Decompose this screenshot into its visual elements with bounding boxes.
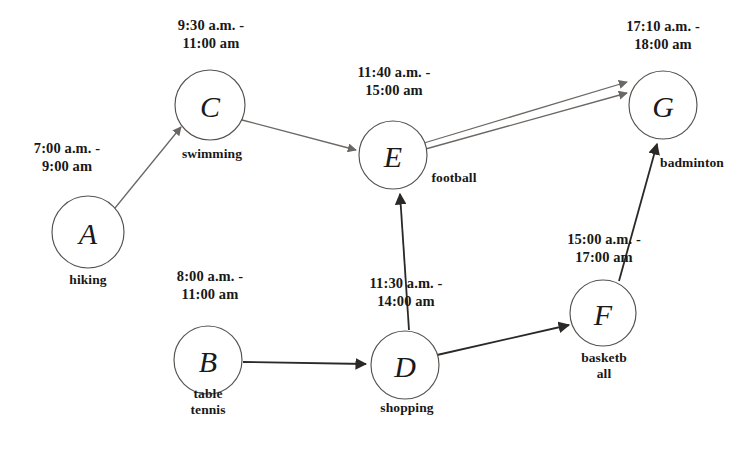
node-e-activity-label: football: [418, 170, 490, 186]
activity-graph-diagram: A B C D E F G: [0, 0, 756, 455]
node-g[interactable]: G: [629, 71, 697, 139]
node-b-letter: B: [199, 345, 217, 378]
node-b[interactable]: B: [174, 326, 242, 394]
node-b-activity-label: table tennis: [160, 386, 256, 419]
node-g-letter: G: [652, 90, 674, 123]
edge-b-to-d: [243, 362, 366, 364]
node-e-time-label: 11:40 a.m. - 15:00 am: [327, 64, 461, 99]
node-d-time-label: 11:30 a.m. - 14:00 am: [340, 275, 472, 310]
node-e-letter: E: [383, 140, 402, 173]
node-f-time-label: 15:00 a.m. - 17:00 am: [538, 231, 670, 266]
node-c[interactable]: C: [175, 70, 245, 140]
node-f-letter: F: [593, 298, 613, 331]
node-c-time-label: 9:30 a.m. - 11:00 am: [148, 17, 274, 52]
node-f[interactable]: F: [570, 280, 636, 346]
node-c-activity-label: swimming: [156, 146, 268, 162]
edge-d-to-f: [437, 325, 569, 355]
node-a-letter: A: [77, 217, 98, 250]
node-d[interactable]: D: [371, 331, 439, 399]
node-b-time-label: 8:00 a.m. - 11:00 am: [148, 268, 272, 303]
node-a[interactable]: A: [52, 196, 124, 268]
node-a-time-label: 7:00 a.m. - 9:00 am: [2, 140, 132, 175]
edge-e-to-g-lower: [422, 93, 627, 150]
node-c-letter: C: [200, 90, 221, 123]
node-g-activity-label: badminton: [637, 155, 747, 171]
node-d-activity-label: shopping: [355, 400, 459, 416]
node-g-time-label: 17:10 a.m. - 18:00 am: [596, 18, 730, 53]
node-e[interactable]: E: [359, 121, 427, 189]
node-f-activity-label: basketb all: [561, 350, 647, 383]
node-a-activity-label: hiking: [38, 272, 138, 288]
node-d-letter: D: [393, 350, 416, 383]
